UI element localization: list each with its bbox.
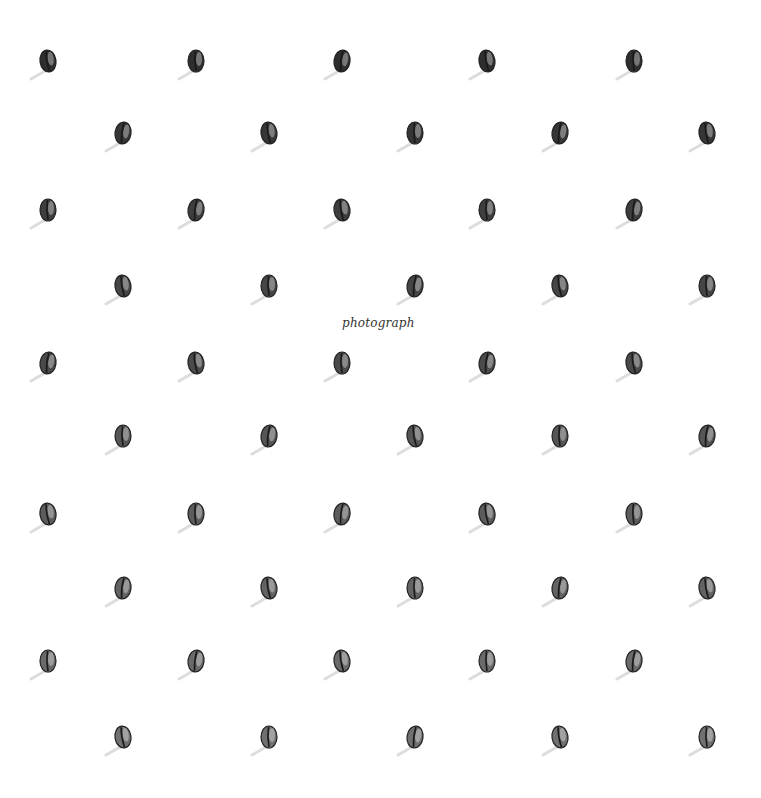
coffee-bean-drawing	[476, 349, 498, 379]
coffee-bean-drawing	[476, 47, 498, 77]
coffee-bean-drawing	[112, 723, 134, 753]
coffee-bean-drawing	[37, 47, 59, 77]
coffee-bean-drawing	[404, 422, 426, 452]
coffee-bean-drawing	[112, 119, 134, 149]
coffee-bean-drawing	[623, 196, 645, 226]
coffee-bean-drawing	[258, 272, 280, 302]
coffee-bean-drawing	[696, 723, 718, 753]
coffee-bean-drawing	[112, 422, 134, 452]
coffee-bean-drawing	[185, 196, 207, 226]
coffee-bean-drawing	[112, 574, 134, 604]
coffee-bean-drawing	[623, 500, 645, 530]
coffee-bean-drawing	[331, 349, 353, 379]
coffee-bean-drawing	[331, 47, 353, 77]
coffee-bean-drawing	[476, 647, 498, 677]
coffee-bean-drawing	[37, 349, 59, 379]
coffee-bean-drawing	[185, 647, 207, 677]
coffee-bean-drawing	[623, 647, 645, 677]
coffee-bean-drawing	[258, 119, 280, 149]
coffee-bean-drawing	[258, 574, 280, 604]
coffee-bean-drawing	[404, 574, 426, 604]
coffee-bean-drawing	[549, 272, 571, 302]
coffee-bean-drawing	[404, 723, 426, 753]
coffee-bean-drawing	[331, 647, 353, 677]
coffee-bean-drawing	[623, 47, 645, 77]
coffee-bean-drawing	[37, 196, 59, 226]
coffee-bean-drawing	[549, 723, 571, 753]
caption-text: photograph	[342, 316, 415, 330]
coffee-bean-drawing	[185, 47, 207, 77]
coffee-bean-drawing	[476, 500, 498, 530]
coffee-bean-drawing	[476, 196, 498, 226]
coffee-bean-drawing	[258, 723, 280, 753]
coffee-bean-drawing	[331, 196, 353, 226]
coffee-bean-drawing	[185, 349, 207, 379]
coffee-bean-drawing	[404, 119, 426, 149]
coffee-bean-drawing	[549, 119, 571, 149]
coffee-bean-drawing	[112, 272, 134, 302]
coffee-bean-drawing	[549, 422, 571, 452]
coffee-bean-drawing	[37, 647, 59, 677]
coffee-bean-drawing	[696, 574, 718, 604]
coffee-bean-drawing	[37, 500, 59, 530]
coffee-bean-drawing	[696, 119, 718, 149]
coffee-bean-drawing	[404, 272, 426, 302]
coffee-bean-drawing	[696, 272, 718, 302]
coffee-bean-drawing	[331, 500, 353, 530]
coffee-bean-drawing	[696, 422, 718, 452]
coffee-bean-drawing	[185, 500, 207, 530]
coffee-bean-drawing	[258, 422, 280, 452]
coffee-bean-drawing	[549, 574, 571, 604]
coffee-bean-drawing	[623, 349, 645, 379]
